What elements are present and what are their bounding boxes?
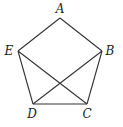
vertex-label-a: A (55, 2, 65, 16)
vertex-label-b: B (105, 44, 115, 58)
edges (18, 18, 102, 104)
side-DE (18, 51, 33, 104)
diagonal-BD (33, 51, 102, 104)
vertex-label-c: C (82, 107, 91, 121)
side-AB (60, 18, 102, 51)
pentagon-diagram: A B C D E (0, 0, 123, 127)
side-BC (87, 51, 102, 104)
vertex-labels: A B C D E (4, 2, 115, 121)
vertex-label-d: D (26, 107, 37, 121)
side-EA (18, 18, 60, 51)
vertex-label-e: E (4, 44, 14, 58)
diagonal-EC (18, 51, 87, 104)
